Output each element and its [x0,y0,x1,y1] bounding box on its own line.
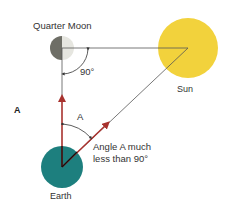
note-line-2: less than 90° [93,153,148,164]
panel-label: A [14,105,21,115]
angle-a-label: A [77,111,83,122]
moon-label: Quarter Moon [33,20,92,31]
right-angle-label: 90° [80,66,94,77]
earth-label: Earth [50,191,72,202]
angle-a-arc [63,124,91,138]
note-line-1: Angle A much [93,141,151,152]
geometry [0,0,234,207]
diagram: Quarter Moon 90° Sun A A Angle A much le… [0,0,234,207]
sun-label: Sun [177,84,193,95]
